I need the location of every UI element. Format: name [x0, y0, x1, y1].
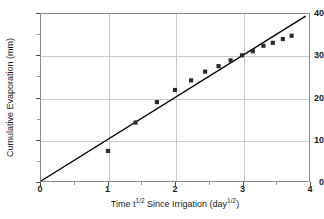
x-axis-major-tick — [108, 182, 109, 186]
data-point-marker — [106, 149, 110, 153]
evaporation-chart-figure: Cumulative Evaporation (mm) Time t1/2 Si… — [0, 0, 324, 219]
x-axis-tick-label: 1 — [96, 185, 120, 194]
data-point-marker — [229, 58, 233, 62]
x-axis-tick-label: 2 — [163, 185, 187, 194]
x-axis-tick-label: 0 — [28, 185, 52, 194]
data-point-marker — [173, 88, 177, 92]
plot-area — [40, 13, 310, 182]
x-axis-tick-label: 4 — [298, 185, 322, 194]
data-point-marker — [155, 100, 159, 104]
x-axis-title: Time t1/2 Since Irrigation (day1/2) — [40, 198, 310, 210]
x-axis-major-tick — [243, 182, 244, 186]
data-point-marker — [271, 41, 275, 45]
x-axis-major-tick — [175, 182, 176, 186]
x-axis-major-tick — [310, 182, 311, 186]
data-point-marker — [189, 78, 193, 82]
data-point-marker — [289, 34, 293, 38]
data-point-marker — [240, 53, 244, 57]
data-point-marker — [261, 44, 265, 48]
y-axis-title: Cumulative Evaporation (mm) — [3, 13, 17, 182]
data-point-marker — [216, 64, 220, 68]
x-axis-minor-tick — [209, 182, 210, 185]
x-axis-title-pre: Time t — [111, 199, 136, 209]
x-axis-title-post: ) — [236, 199, 239, 209]
x-axis-minor-tick — [74, 182, 75, 185]
data-point-marker — [133, 120, 137, 124]
data-point-layer — [41, 14, 309, 181]
x-axis-title-exponent-2: 1/2 — [227, 197, 236, 204]
data-point-marker — [281, 37, 285, 41]
x-axis-tick-label: 3 — [231, 185, 255, 194]
data-point-marker — [251, 49, 255, 53]
x-axis-major-tick — [40, 182, 41, 186]
data-point-marker — [203, 70, 207, 74]
x-axis-minor-tick — [141, 182, 142, 185]
x-axis-title-exponent-1: 1/2 — [136, 197, 145, 204]
x-axis-minor-tick — [276, 182, 277, 185]
x-axis-title-mid: Since Irrigation (day — [145, 199, 228, 209]
